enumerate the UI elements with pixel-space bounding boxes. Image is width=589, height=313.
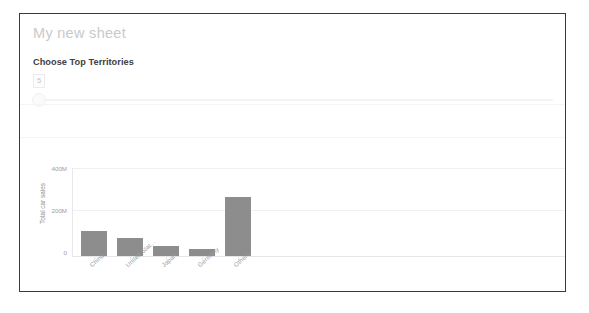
y-axis-ticks: 400M 200M 0 bbox=[37, 138, 67, 292]
x-axis-line bbox=[72, 256, 565, 257]
page-title[interactable]: My new sheet bbox=[33, 25, 126, 41]
bar-others[interactable] bbox=[225, 197, 251, 256]
screenshot-root: My new sheet Choose Top Territories 5 To… bbox=[0, 0, 589, 313]
y-tick-label-200m: 200M bbox=[37, 207, 67, 214]
plot-area: China United Stat... Japan Germany Other… bbox=[72, 138, 565, 292]
slider-label: Choose Top Territories bbox=[33, 57, 134, 67]
gridline-200m bbox=[72, 210, 565, 211]
y-tick-label-0: 0 bbox=[37, 249, 67, 256]
section-divider-top bbox=[20, 104, 565, 105]
top-territories-slider[interactable]: 5 bbox=[31, 74, 555, 112]
bar-china[interactable] bbox=[81, 231, 107, 256]
bar-chart[interactable]: Total car sales 400M 200M 0 bbox=[20, 138, 565, 292]
gridline-400m bbox=[72, 168, 565, 169]
slider-track[interactable] bbox=[39, 99, 553, 101]
slider-value-tooltip: 5 bbox=[33, 74, 45, 88]
y-axis-line bbox=[72, 168, 73, 257]
y-tick-label-400m: 400M bbox=[37, 165, 67, 172]
sheet-card: My new sheet Choose Top Territories 5 To… bbox=[19, 13, 566, 292]
